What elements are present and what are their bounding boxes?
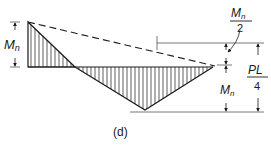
moment-diagram: Mn Mn 2 Mn PL 4 (d): [0, 0, 271, 145]
left-moment-dimension: Mn: [4, 22, 20, 67]
pl-numerator: PL: [248, 63, 263, 77]
left-moment-label: Mn: [4, 37, 20, 53]
right-moment-dimension: Mn: [220, 66, 235, 111]
pl-over-4-dimension: PL 4: [247, 44, 268, 111]
pl-denominator: 4: [254, 80, 260, 92]
figure-caption: (d): [113, 125, 128, 139]
half-moment-numerator: Mn: [231, 6, 246, 21]
half-moment-dimension: Mn 2: [226, 6, 252, 64]
dashed-reference-line: [28, 22, 215, 66]
half-moment-denominator: 2: [237, 22, 243, 34]
right-moment-label: Mn: [220, 83, 235, 98]
negative-moment-region: [75, 66, 213, 112]
